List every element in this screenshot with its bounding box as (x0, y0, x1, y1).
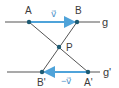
label-a: A (25, 5, 32, 16)
label-b: B (75, 5, 82, 16)
point-p (57, 45, 61, 49)
label-b-prime: B' (37, 77, 46, 88)
label-vector-minus-v: −v⃗ (61, 76, 72, 86)
label-p: P (66, 42, 73, 53)
point-a-prime (86, 70, 90, 74)
label-vector-v: v⃗ (51, 9, 57, 19)
point-reflection-diagram: A B P B' A' g g' v⃗ −v⃗ (0, 0, 119, 88)
label-line-g-prime: g' (103, 66, 111, 78)
point-b-prime (40, 70, 44, 74)
point-a (27, 20, 31, 24)
label-a-prime: A' (84, 77, 93, 88)
point-b (75, 20, 79, 24)
label-line-g: g (102, 16, 108, 28)
